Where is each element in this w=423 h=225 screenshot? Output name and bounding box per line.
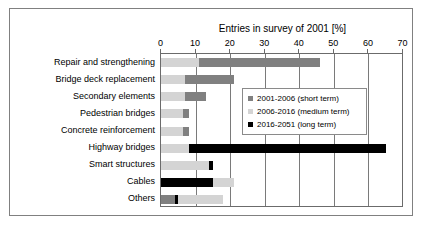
- bar-segment: [185, 75, 233, 84]
- chart-title: Entries in survey of 2001 [%]: [160, 23, 405, 34]
- bar-segment: [161, 109, 183, 118]
- bar-row: [161, 58, 402, 67]
- bar-segment: [161, 58, 199, 67]
- x-tick-mark: [333, 49, 334, 53]
- y-axis-label: Smart structures: [89, 159, 155, 169]
- bar-row: [161, 75, 402, 84]
- legend-swatch: [248, 96, 253, 101]
- y-axis-label: Pedestrian bridges: [80, 108, 155, 118]
- bar-segment: [185, 92, 206, 101]
- bar-segment: [199, 58, 320, 67]
- bar-row: [161, 161, 402, 170]
- bar-segment: [161, 178, 213, 187]
- y-axis-label: Cables: [127, 176, 155, 186]
- legend-item: 2001-2006 (short term): [248, 92, 362, 105]
- chart-frame: Entries in survey of 2001 [%] 0102030405…: [9, 8, 413, 216]
- bar-segment: [161, 75, 185, 84]
- y-axis-label: Repair and strengthening: [54, 57, 155, 67]
- x-tick-label: 70: [397, 38, 407, 48]
- x-tick-mark: [298, 49, 299, 53]
- bar-segment: [161, 92, 185, 101]
- bar-segment: [161, 195, 175, 204]
- x-tick-mark: [160, 49, 161, 53]
- bar-segment: [161, 144, 189, 153]
- y-axis-label: Others: [128, 193, 155, 203]
- bar-segment: [183, 127, 188, 136]
- bar-row: [161, 144, 402, 153]
- x-tick-mark: [402, 49, 403, 53]
- x-tick-mark: [264, 49, 265, 53]
- bar-segment: [213, 178, 234, 187]
- y-axis-label: Highway bridges: [88, 142, 155, 152]
- bar-row: [161, 195, 402, 204]
- x-tick-label: 60: [363, 38, 373, 48]
- legend-swatch: [248, 122, 253, 127]
- legend-label: 2001-2006 (short term): [257, 94, 339, 103]
- x-tick-label: 20: [225, 38, 235, 48]
- bar-segment: [209, 161, 212, 170]
- legend-label: 2006-2016 (medium term): [257, 107, 349, 116]
- x-tick-label: 10: [190, 38, 200, 48]
- legend-item: 2016-2051 (long term): [248, 118, 362, 131]
- legend-label: 2016-2051 (long term): [257, 120, 336, 129]
- x-tick-label: 0: [158, 38, 163, 48]
- y-axis-label: Concrete reinforcement: [61, 125, 155, 135]
- x-tick-label: 40: [294, 38, 304, 48]
- bar-segment: [189, 144, 386, 153]
- y-axis-label: Secondary elements: [73, 91, 155, 101]
- x-tick-mark: [195, 49, 196, 53]
- legend-swatch: [248, 109, 253, 114]
- x-tick-label: 50: [328, 38, 338, 48]
- x-tick-mark: [367, 49, 368, 53]
- x-tick-label: 30: [259, 38, 269, 48]
- bar-segment: [183, 109, 188, 118]
- bar-segment: [161, 127, 183, 136]
- y-axis-category-labels: Repair and strengtheningBridge deck repl…: [22, 53, 158, 207]
- bar-segment: [178, 195, 223, 204]
- x-tick-mark: [229, 49, 230, 53]
- legend-item: 2006-2016 (medium term): [248, 105, 362, 118]
- bar-row: [161, 178, 402, 187]
- bar-segment: [161, 161, 209, 170]
- y-axis-label: Bridge deck replacement: [55, 74, 155, 84]
- chart-legend: 2001-2006 (short term)2006-2016 (medium …: [242, 88, 367, 135]
